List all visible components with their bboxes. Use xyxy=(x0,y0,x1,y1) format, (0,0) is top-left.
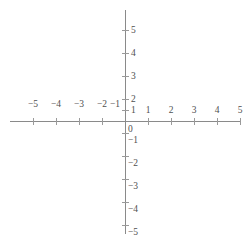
origin-label-zero: 0 xyxy=(128,124,140,134)
y-tick-pos3 xyxy=(122,76,129,77)
x-label-neg1: −1 xyxy=(107,99,123,109)
coordinate-plane: −5 −4 −3 −2 −1 1 2 3 4 5 5 4 3 2 1 0 −1 … xyxy=(0,0,251,244)
x-tick-pos4 xyxy=(217,118,218,125)
y-axis-line xyxy=(125,10,126,234)
x-label-neg4: −4 xyxy=(48,99,64,109)
y-label-pos3: 3 xyxy=(131,71,145,81)
y-tick-neg3 xyxy=(122,179,129,180)
y-tick-neg5 xyxy=(122,225,129,226)
y-label-pos4: 4 xyxy=(131,48,145,58)
x-label-neg5: −5 xyxy=(25,99,41,109)
x-tick-pos3 xyxy=(194,118,195,125)
y-label-neg4: −4 xyxy=(128,204,142,214)
y-label-neg5: −5 xyxy=(128,227,142,237)
y-tick-pos2 xyxy=(122,99,129,100)
y-label-neg1: −1 xyxy=(128,135,142,145)
y-label-neg2: −2 xyxy=(128,158,142,168)
x-tick-neg4 xyxy=(56,118,57,125)
x-tick-pos1 xyxy=(148,118,149,125)
y-label-pos5: 5 xyxy=(131,25,145,35)
y-label-pos1: 1 xyxy=(131,105,145,115)
y-tick-pos1 xyxy=(122,110,129,111)
x-tick-neg2 xyxy=(102,118,103,125)
x-label-neg3: −3 xyxy=(71,99,87,109)
x-label-pos3: 3 xyxy=(186,105,202,115)
y-tick-neg4 xyxy=(122,202,129,203)
y-label-pos2: 2 xyxy=(131,94,145,104)
y-tick-pos5 xyxy=(122,30,129,31)
x-tick-pos5 xyxy=(240,118,241,125)
y-label-neg3: −3 xyxy=(128,181,142,191)
x-tick-neg5 xyxy=(33,118,34,125)
y-tick-neg2 xyxy=(122,156,129,157)
x-label-pos4: 4 xyxy=(209,105,225,115)
y-tick-pos4 xyxy=(122,53,129,54)
x-label-pos2: 2 xyxy=(163,105,179,115)
x-tick-neg3 xyxy=(79,118,80,125)
x-tick-pos2 xyxy=(171,118,172,125)
x-label-pos5: 5 xyxy=(232,105,248,115)
